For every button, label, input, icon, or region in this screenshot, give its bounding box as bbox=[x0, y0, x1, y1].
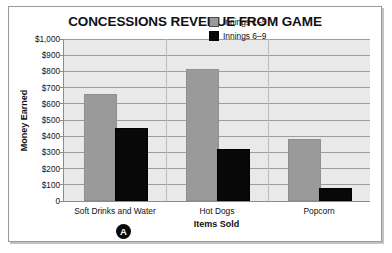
plot-area: 0$100$200$300$400$500$600$700$800$900$1,… bbox=[63, 39, 370, 202]
y-axis-tick-label: 0 bbox=[55, 197, 60, 206]
x-axis-tick-label: Hot Dogs bbox=[166, 206, 268, 216]
bar bbox=[319, 188, 352, 201]
chart-title: CONCESSIONS REVENUE FROM GAME bbox=[9, 14, 381, 29]
bar bbox=[186, 69, 219, 201]
legend-label: Innings 1–5 bbox=[223, 17, 266, 27]
bar bbox=[84, 94, 117, 201]
x-axis-tick-label: Soft Drinks and Water bbox=[64, 206, 166, 216]
legend-label: Innings 6–9 bbox=[223, 31, 266, 41]
y-axis-tick-label: $200 bbox=[42, 164, 60, 173]
bar bbox=[288, 139, 321, 201]
legend-swatch-icon bbox=[209, 17, 219, 27]
answer-marker-icon: A bbox=[116, 224, 131, 239]
chart-legend: Innings 1–5 Innings 6–9 bbox=[206, 14, 269, 45]
y-axis-tick-label: $900 bbox=[42, 51, 60, 60]
x-axis-label: Items Sold bbox=[63, 219, 370, 229]
x-axis-tick-label: Popcorn bbox=[268, 206, 370, 216]
chart-figure: CONCESSIONS REVENUE FROM GAME Money Earn… bbox=[8, 6, 382, 242]
y-axis-tick-label: $600 bbox=[42, 99, 60, 108]
y-axis-tick-label: $500 bbox=[42, 116, 60, 125]
legend-swatch-icon bbox=[209, 31, 219, 41]
y-axis-tick-label: $1,000 bbox=[35, 35, 60, 44]
bar-group: Soft Drinks and Water bbox=[64, 39, 166, 201]
bar-group: Hot Dogs bbox=[166, 39, 268, 201]
bar bbox=[217, 149, 250, 201]
y-axis-tick-label: $400 bbox=[42, 132, 60, 141]
legend-item: Innings 6–9 bbox=[209, 29, 266, 43]
y-axis-tick-label: $800 bbox=[42, 67, 60, 76]
bar bbox=[115, 128, 148, 201]
y-axis-tick-label: $300 bbox=[42, 148, 60, 157]
y-axis-label: Money Earned bbox=[19, 39, 33, 202]
bar-group: Popcorn bbox=[268, 39, 370, 201]
y-axis-tick-label: $700 bbox=[42, 83, 60, 92]
y-axis-tick-label: $100 bbox=[42, 180, 60, 189]
legend-item: Innings 1–5 bbox=[209, 15, 266, 29]
